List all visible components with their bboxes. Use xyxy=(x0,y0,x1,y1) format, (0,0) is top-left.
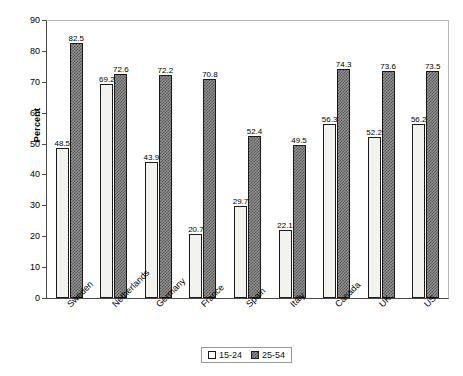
y-tick-label: 60 xyxy=(30,108,40,117)
bar-value-label: 70.8 xyxy=(202,70,218,79)
bars-layer: 48.582.569.272.643.972.220.770.829.752.4… xyxy=(47,20,448,298)
bar-value-label: 52.4 xyxy=(247,127,263,136)
bar-value-label: 48.5 xyxy=(54,139,70,148)
bar-value-label: 22.1 xyxy=(277,221,293,230)
y-tick-label: 40 xyxy=(30,170,40,179)
y-tick-label: 20 xyxy=(30,232,40,241)
bar-value-label: 20.7 xyxy=(188,225,204,234)
y-tick-label: 10 xyxy=(30,263,40,272)
bar-25-54: 73.6 xyxy=(382,71,395,298)
y-tick-label: 50 xyxy=(30,139,40,148)
bar-25-54: 70.8 xyxy=(203,79,216,298)
bar-group: 56.374.3 xyxy=(314,20,359,298)
y-tick-label: 30 xyxy=(30,201,40,210)
y-axis-ticks: 0102030405060708090 xyxy=(0,20,46,299)
bar-25-54: 52.4 xyxy=(248,136,261,298)
y-tick-label: 0 xyxy=(35,294,40,303)
bar-25-54: 82.5 xyxy=(70,43,83,298)
bar-15-24: 22.1 xyxy=(279,230,292,298)
bar-15-24: 20.7 xyxy=(189,234,202,298)
legend-swatch-icon-series2 xyxy=(251,351,259,359)
chart-legend: 15-24 25-54 xyxy=(201,347,292,363)
legend-item-series1: 15-24 xyxy=(208,350,242,360)
bar-value-label: 73.5 xyxy=(425,62,441,71)
bar-value-label: 56.3 xyxy=(322,115,338,124)
bar-value-label: 73.6 xyxy=(380,62,396,71)
bar-group: 20.770.8 xyxy=(181,20,226,298)
bar-group: 22.149.5 xyxy=(270,20,315,298)
bar-value-label: 29.7 xyxy=(233,197,249,206)
y-tick-label: 70 xyxy=(30,77,40,86)
bar-25-54: 49.5 xyxy=(293,145,306,298)
bar-15-24: 29.7 xyxy=(234,206,247,298)
bar-15-24: 69.2 xyxy=(100,84,113,298)
bar-15-24: 56.2 xyxy=(412,124,425,298)
bar-chart: Percent 0102030405060708090 48.582.569.2… xyxy=(0,0,463,376)
bar-group: 29.752.4 xyxy=(225,20,270,298)
legend-label-series2: 25-54 xyxy=(262,350,285,360)
bar-value-label: 82.5 xyxy=(68,34,84,43)
legend-swatch-icon-series1 xyxy=(208,351,216,359)
bar-group: 48.582.5 xyxy=(47,20,92,298)
bar-group: 43.972.2 xyxy=(136,20,181,298)
bar-15-24: 56.3 xyxy=(323,124,336,298)
legend-item-series2: 25-54 xyxy=(251,350,285,360)
bar-25-54: 74.3 xyxy=(337,69,350,299)
bar-15-24: 52.2 xyxy=(368,137,381,298)
bar-value-label: 43.9 xyxy=(144,153,160,162)
bar-value-label: 49.5 xyxy=(291,136,307,145)
bar-25-54: 72.6 xyxy=(114,74,127,298)
bar-value-label: 52.2 xyxy=(366,128,382,137)
bar-value-label: 72.2 xyxy=(158,66,174,75)
y-tick-label: 80 xyxy=(30,46,40,55)
legend-label-series1: 15-24 xyxy=(219,350,242,360)
bar-group: 69.272.6 xyxy=(92,20,137,298)
bar-value-label: 72.6 xyxy=(113,65,129,74)
bar-15-24: 48.5 xyxy=(56,148,69,298)
bar-25-54: 73.5 xyxy=(426,71,439,298)
bar-25-54: 72.2 xyxy=(159,75,172,298)
y-tick-label: 90 xyxy=(30,16,40,25)
bar-value-label: 74.3 xyxy=(336,60,352,69)
bar-value-label: 69.2 xyxy=(99,75,115,84)
bar-value-label: 56.2 xyxy=(411,115,427,124)
bar-group: 56.273.5 xyxy=(403,20,448,298)
bar-group: 52.273.6 xyxy=(359,20,404,298)
